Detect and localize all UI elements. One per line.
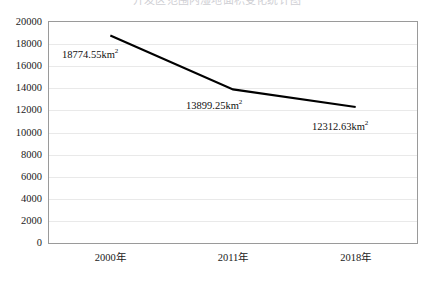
y-tick-8000: 8000	[21, 150, 42, 160]
y-tick-0: 0	[37, 238, 42, 248]
y-tick-6000: 6000	[21, 172, 42, 182]
chart-title-clipped: 开发区范围内湿地面积变化统计图	[0, 0, 432, 7]
y-tick-12000: 12000	[16, 105, 42, 115]
x-tick-2018年: 2018年	[326, 252, 386, 264]
data-label-2000: 18774.55km2	[62, 46, 118, 60]
chart-figure: 开发区范围内湿地面积变化统计图 200001800016000140001200…	[0, 0, 432, 282]
y-tick-20000: 20000	[16, 17, 42, 27]
data-label-2011: 13899.25km2	[186, 97, 242, 111]
x-tick-2000年: 2000年	[80, 252, 140, 264]
x-axis-tick-labels: 2000年2011年2018年	[0, 252, 432, 274]
data-label-2018: 12312.63km2	[312, 118, 368, 132]
y-tick-14000: 14000	[16, 83, 42, 93]
y-tick-16000: 16000	[16, 61, 42, 71]
y-tick-2000: 2000	[21, 216, 42, 226]
y-tick-10000: 10000	[16, 128, 42, 138]
y-tick-18000: 18000	[16, 39, 42, 49]
y-axis-tick-labels: 2000018000160001400012000100008000600040…	[0, 0, 46, 282]
x-tick-2011年: 2011年	[203, 252, 263, 264]
chart-title: 开发区范围内湿地面积变化统计图	[62, 0, 372, 7]
y-tick-4000: 4000	[21, 194, 42, 204]
